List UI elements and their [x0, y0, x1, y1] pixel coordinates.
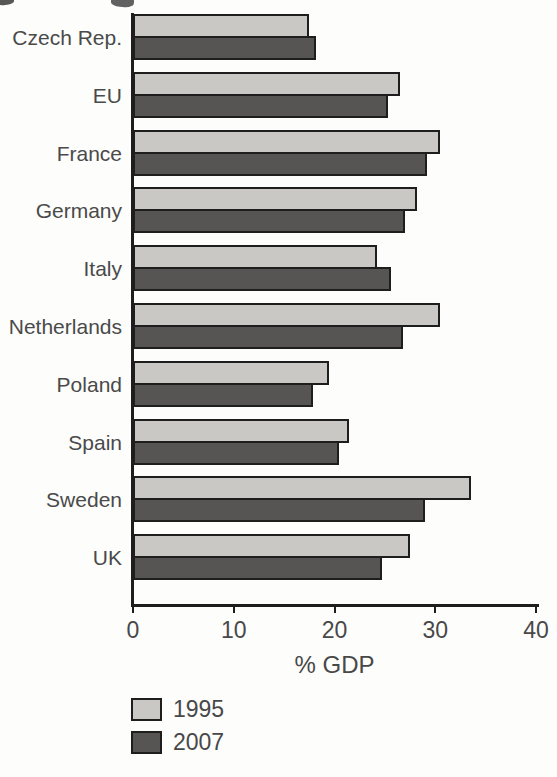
x-tick-label-0: 0	[127, 617, 140, 644]
category-label-italy: Italy	[0, 245, 122, 303]
chart-row-germany	[133, 187, 536, 245]
bar-1995-czech-rep	[133, 14, 309, 38]
chart-row-spain	[133, 419, 536, 477]
x-tick-mark-30	[434, 607, 436, 613]
bar-1995-poland	[133, 361, 329, 385]
x-tick-mark-40	[535, 607, 537, 613]
category-axis-labels: Czech Rep.EUFranceGermanyItalyNetherland…	[0, 14, 122, 592]
x-tick-mark-20	[334, 607, 336, 613]
category-label-czech-rep: Czech Rep.	[0, 14, 122, 72]
bar-2007-czech-rep	[133, 36, 316, 60]
bar-2007-spain	[133, 441, 339, 465]
bar-1995-uk	[133, 534, 410, 558]
legend-swatch-1995	[131, 698, 162, 721]
legend-label-1995: 1995	[173, 696, 224, 723]
chart-rows	[133, 14, 536, 592]
legend-item-2007: 2007	[131, 729, 224, 756]
x-tick-mark-10	[233, 607, 235, 613]
category-label-poland: Poland	[0, 361, 122, 419]
bar-2007-france	[133, 152, 427, 176]
chart-row-eu	[133, 72, 536, 130]
category-label-sweden: Sweden	[0, 476, 122, 534]
legend-swatch-2007	[131, 731, 162, 754]
bar-2007-poland	[133, 383, 313, 407]
bar-2007-eu	[133, 94, 388, 118]
bar-2007-germany	[133, 209, 405, 233]
legend-label-2007: 2007	[173, 729, 224, 756]
category-label-germany: Germany	[0, 187, 122, 245]
x-tick-label-20: 20	[322, 617, 348, 644]
category-label-eu: EU	[0, 72, 122, 130]
x-tick-label-40: 40	[523, 617, 549, 644]
chart-row-poland	[133, 361, 536, 419]
chart-row-netherlands	[133, 303, 536, 361]
chart-row-czech-rep	[133, 14, 536, 72]
category-label-netherlands: Netherlands	[0, 303, 122, 361]
bar-2007-sweden	[133, 498, 425, 522]
bar-1995-spain	[133, 419, 349, 443]
legend-item-1995: 1995	[131, 696, 224, 723]
category-label-uk: UK	[0, 534, 122, 592]
chart-row-sweden	[133, 476, 536, 534]
bar-2007-netherlands	[133, 325, 403, 349]
scan-smudge-artifact	[0, 0, 14, 6]
bar-1995-italy	[133, 245, 377, 269]
bar-2007-uk	[133, 556, 382, 580]
bar-1995-netherlands	[133, 303, 440, 327]
chart-row-uk	[133, 534, 536, 592]
x-tick-mark-0	[132, 607, 134, 613]
x-tick-label-30: 30	[422, 617, 448, 644]
legend: 19952007	[131, 696, 224, 762]
chart-row-italy	[133, 245, 536, 303]
x-axis-ticks: 010203040	[133, 607, 536, 647]
category-label-spain: Spain	[0, 419, 122, 477]
bar-1995-france	[133, 130, 440, 154]
category-label-france: France	[0, 130, 122, 188]
x-tick-label-10: 10	[221, 617, 247, 644]
bar-1995-germany	[133, 187, 417, 211]
bar-2007-italy	[133, 267, 391, 291]
bar-1995-eu	[133, 72, 400, 96]
scan-smudge-artifact	[111, 0, 135, 8]
chart-row-france	[133, 130, 536, 188]
bar-1995-sweden	[133, 476, 471, 500]
bar-chart-figure: Czech Rep.EUFranceGermanyItalyNetherland…	[0, 0, 557, 777]
x-axis-title: % GDP	[133, 651, 536, 679]
